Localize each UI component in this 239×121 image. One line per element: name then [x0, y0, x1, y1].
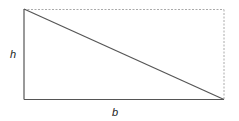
triangle-diagram: h b	[0, 0, 239, 121]
triangle-hypotenuse	[24, 9, 224, 100]
height-label: h	[10, 48, 16, 60]
base-label: b	[112, 106, 118, 118]
